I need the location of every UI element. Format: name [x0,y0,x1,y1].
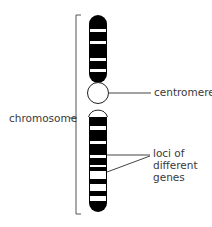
loci-leader-line [107,156,150,172]
loci-label-line2: different [153,159,198,171]
chromosome-label: chromosome [9,112,77,124]
light-band [90,171,106,179]
centromere [88,83,109,118]
light-band [90,165,106,167]
light-band [90,184,106,191]
lower-arm [89,117,107,212]
light-band [90,141,106,144]
light-band [90,155,106,158]
light-band [90,126,106,130]
light-band [90,29,106,32]
upper-arm [89,15,107,83]
light-band [90,69,106,72]
light-band [90,41,106,44]
loci-label-line1: loci of [153,147,185,159]
loci-label-line3: genes [153,171,185,183]
light-band [90,58,106,61]
centromere-upper-circle [88,83,109,104]
centromere-label: centromere [154,86,212,98]
light-band [90,196,106,201]
centromere-lower-arc [89,110,108,117]
chromosome-diagram: chromosome centromere loci of different … [0,0,212,227]
upper-arm-body [89,15,107,83]
